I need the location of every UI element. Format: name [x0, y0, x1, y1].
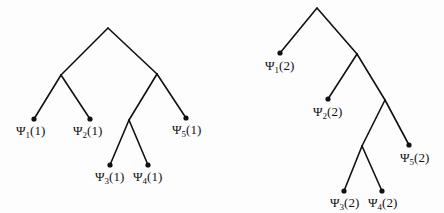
tree-edge: [129, 120, 148, 165]
tree-edge: [328, 54, 357, 99]
psi-symbol: Ψ: [265, 58, 275, 73]
leaf-label: Ψ1(1): [16, 124, 45, 140]
leaf-node-dot: [325, 96, 330, 101]
leaf-node-dot: [406, 142, 411, 147]
psi-symbol: Ψ: [330, 195, 340, 210]
leaf-label: Ψ5(1): [172, 123, 201, 139]
tree-edge: [129, 74, 157, 120]
tree-edge: [344, 146, 362, 191]
leaf-label: Ψ3(1): [95, 170, 124, 186]
leaf-label: Ψ1(2): [265, 59, 294, 75]
psi-symbol: Ψ: [400, 150, 410, 165]
leaf-label: Ψ4(2): [368, 196, 397, 212]
leaf-node-dot: [277, 50, 282, 55]
label-argument: (1): [30, 123, 45, 138]
leaf-label: Ψ5(2): [400, 151, 429, 167]
tree-2: [277, 8, 411, 194]
psi-symbol: Ψ: [73, 123, 83, 138]
label-argument: (2): [344, 195, 359, 210]
tree-edge: [317, 8, 357, 54]
diagram-canvas: Ψ1(1)Ψ2(1)Ψ5(1)Ψ3(1)Ψ4(1)Ψ1(2)Ψ2(2)Ψ5(2)…: [0, 0, 444, 213]
leaf-node-dot: [107, 162, 112, 167]
psi-symbol: Ψ: [133, 169, 143, 184]
tree-edge: [157, 74, 186, 118]
leaf-node-dot: [87, 116, 92, 121]
tree-edge: [110, 120, 129, 165]
leaf-node-dot: [183, 115, 188, 120]
leaf-node-dot: [341, 188, 346, 193]
leaf-node-dot: [145, 162, 150, 167]
tree-edge: [61, 28, 108, 75]
psi-symbol: Ψ: [172, 122, 182, 137]
leaf-label: Ψ2(1): [73, 124, 102, 140]
tree-edge: [108, 28, 157, 74]
label-argument: (2): [279, 58, 294, 73]
psi-symbol: Ψ: [313, 104, 323, 119]
label-argument: (1): [109, 169, 124, 184]
tree-1: [31, 28, 188, 168]
leaf-label: Ψ2(2): [313, 105, 342, 121]
tree-edge: [61, 75, 90, 119]
label-argument: (2): [327, 104, 342, 119]
label-argument: (1): [87, 123, 102, 138]
psi-symbol: Ψ: [95, 169, 105, 184]
tree-edge: [357, 54, 385, 100]
tree-edge: [362, 100, 385, 146]
tree-edge: [34, 75, 61, 119]
leaf-node-dot: [379, 188, 384, 193]
leaf-label: Ψ3(2): [330, 196, 359, 212]
psi-symbol: Ψ: [368, 195, 378, 210]
label-argument: (1): [186, 122, 201, 137]
leaf-label: Ψ4(1): [133, 170, 162, 186]
tree-graphics: [0, 0, 444, 213]
tree-edge: [385, 100, 409, 145]
leaf-node-dot: [31, 116, 36, 121]
psi-symbol: Ψ: [16, 123, 26, 138]
label-argument: (2): [382, 195, 397, 210]
label-argument: (1): [147, 169, 162, 184]
tree-edge: [362, 146, 382, 191]
tree-edge: [280, 8, 317, 53]
label-argument: (2): [414, 150, 429, 165]
